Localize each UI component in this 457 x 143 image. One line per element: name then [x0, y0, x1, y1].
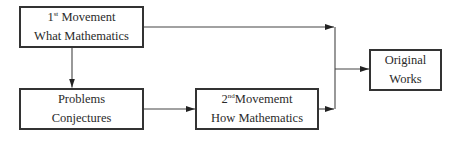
second-movement-label: Movememt [235, 92, 293, 106]
first-movement-title: 1st Movement [47, 8, 115, 27]
conjectures-label: Conjectures [52, 109, 112, 128]
first-movement-label: Movement [58, 10, 115, 24]
flowchart-canvas: 1st Movement What Mathematics Problems C… [0, 0, 457, 143]
node-original-works: Original Works [369, 49, 442, 91]
first-movement-subtitle: What Mathematics [34, 27, 129, 46]
original-label: Original [385, 51, 427, 70]
second-movement-title: 2ndMovememt [222, 90, 293, 109]
node-second-movement: 2ndMovememt How Mathematics [195, 88, 319, 130]
second-movement-subtitle: How Mathematics [211, 109, 303, 128]
node-first-movement: 1st Movement What Mathematics [19, 6, 144, 48]
problems-label: Problems [58, 90, 105, 109]
works-label: Works [389, 70, 421, 89]
ordinal-suffix: nd [228, 92, 235, 100]
node-problems-conjectures: Problems Conjectures [19, 88, 144, 130]
